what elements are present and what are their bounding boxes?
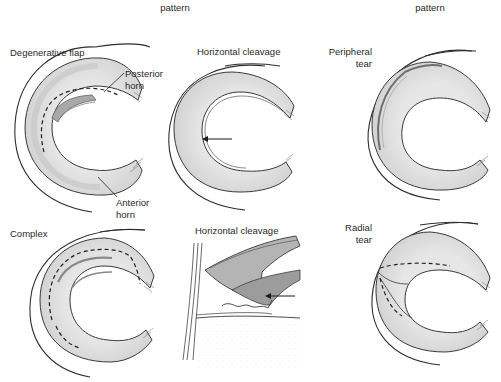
column-right-caption: pattern <box>405 2 455 13</box>
annotation-posterior-horn-line2: horn <box>125 80 144 91</box>
panel-title-horizontal-cleavage-section: Horizontal cleavage <box>195 225 278 236</box>
panel-peripheral-tear <box>368 50 490 200</box>
panel-horizontal-cleavage-top <box>169 64 294 210</box>
annotation-anterior-horn-line2: horn <box>116 209 135 220</box>
annotation-posterior-horn-line1: Posterior <box>125 68 163 79</box>
panel-horizontal-cleavage-section <box>183 236 300 370</box>
panel-title-peripheral-tear-line1: Peripheral <box>322 46 372 57</box>
panel-title-horizontal-cleavage-top: Horizontal cleavage <box>197 46 280 57</box>
panel-title-complex: Complex <box>10 228 48 239</box>
panel-title-radial-tear-line1: Radial <box>322 222 372 233</box>
panel-complex <box>30 229 154 377</box>
panel-title-degenerative-flap: Degenerative flap <box>10 47 84 58</box>
panel-radial-tear <box>372 222 490 365</box>
panel-title-radial-tear-line2: tear <box>322 234 372 245</box>
annotation-anterior-horn-line1: Anterior <box>116 197 149 208</box>
panel-title-peripheral-tear-line2: tear <box>322 58 372 69</box>
column-left-caption: pattern <box>150 2 200 13</box>
